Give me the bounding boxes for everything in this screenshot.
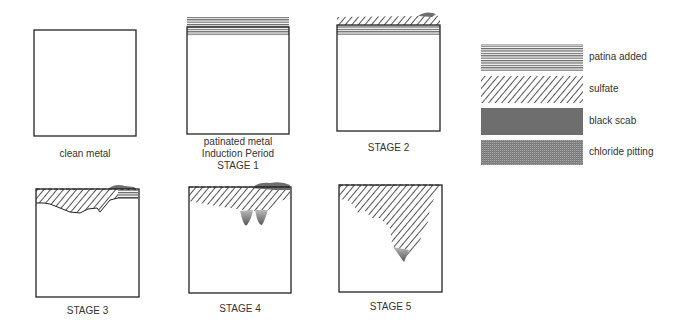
panel-clean-metal [34, 30, 136, 136]
panel-stage-3 [36, 185, 139, 297]
caption-stage-4: STAGE 4 [189, 303, 291, 315]
legend-label-chloride: chloride pitting [589, 146, 653, 157]
panel-stage-1 [187, 17, 289, 134]
caption-stage-3: STAGE 3 [36, 305, 139, 317]
legend-label-patina: patina added [589, 51, 647, 62]
caption-stage-5: STAGE 5 [339, 301, 442, 313]
legend-swatch-patina [481, 44, 583, 71]
legend-swatch-sulfate [481, 76, 583, 103]
caption-stage-1-line-2: Induction Period [187, 148, 289, 160]
legend [481, 44, 583, 165]
panel-stage-4 [189, 182, 291, 293]
diagram-canvas [0, 0, 683, 333]
legend-swatch-chloride [481, 140, 583, 165]
caption-stage-2: STAGE 2 [337, 142, 440, 154]
legend-label-sulfate: sulfate [589, 83, 618, 94]
caption-clean-metal: clean metal [34, 148, 136, 160]
panel-stage-5 [339, 185, 442, 292]
legend-label-scab: black scab [589, 115, 636, 126]
caption-stage-1-line-3: STAGE 1 [187, 160, 289, 172]
panel-stage-2 [337, 12, 440, 131]
caption-stage-1-line-1: patinated metal [187, 136, 289, 148]
legend-swatch-scab [481, 108, 583, 135]
